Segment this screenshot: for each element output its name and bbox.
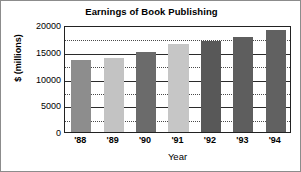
bar [136,52,156,132]
y-tick-label: 0 [56,128,61,138]
y-tick-label: 10000 [36,75,61,85]
bar [168,44,188,132]
x-tick-label: '92 [194,135,226,145]
plot-area [64,26,291,133]
chart-screenshot: Earnings of Book Publishing $ (millions)… [0,0,301,172]
y-tick-label: 20000 [36,21,61,31]
x-axis-label: Year [64,151,291,162]
bar [201,41,221,132]
x-axis-tick-labels: '88'89'90'91'92'93'94 [64,135,291,149]
y-axis-tick-labels: 05000100001500020000 [13,21,61,133]
x-tick-label: '91 [161,135,193,145]
bar [71,60,91,132]
bar [266,30,286,132]
x-tick-label: '89 [96,135,128,145]
x-tick-label: '88 [64,135,96,145]
y-tick-label: 15000 [36,48,61,58]
y-tick-label: 5000 [41,101,61,111]
bar [233,37,253,132]
bar [104,58,124,132]
bar-series [65,27,290,132]
x-tick-label: '94 [259,135,291,145]
x-tick-label: '93 [226,135,258,145]
chart-title: Earnings of Book Publishing [1,6,301,17]
x-tick-label: '90 [129,135,161,145]
